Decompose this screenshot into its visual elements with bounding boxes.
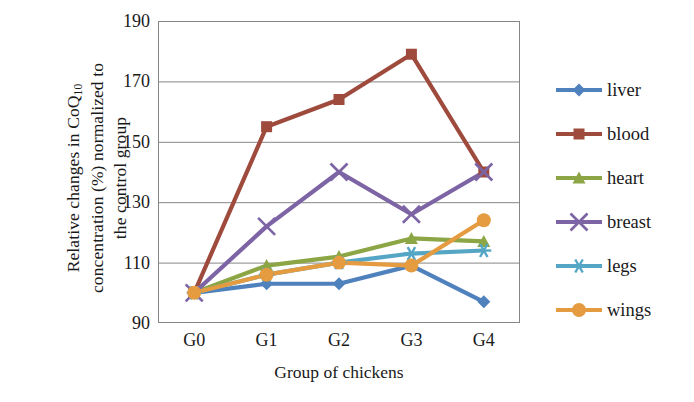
y-axis-title-text: Relative changes in CoQ — [63, 95, 83, 272]
data-point-cross — [331, 164, 348, 181]
data-point-circle — [572, 303, 586, 317]
data-point-circle — [332, 256, 346, 270]
data-point-cross — [403, 206, 420, 223]
legend-item-blood[interactable]: blood — [556, 112, 694, 156]
data-point-square — [261, 121, 272, 132]
series-markers — [186, 49, 493, 309]
data-point-square — [574, 129, 585, 140]
chart-legend: liverbloodheartbreastlegswings — [556, 68, 694, 332]
legend-item-legs[interactable]: legs — [556, 244, 694, 288]
y-axis-tick-label: 90 — [90, 314, 150, 332]
y-axis-title-subscript: 10 — [72, 84, 84, 96]
y-axis-tick-label: 110 — [90, 254, 150, 272]
legend-label-blood: blood — [602, 125, 649, 144]
legend-marker-square-icon — [556, 123, 602, 145]
data-point-diamond — [573, 84, 586, 97]
legend-item-wings[interactable]: wings — [556, 288, 694, 332]
x-axis-tick-label: G1 — [256, 331, 278, 349]
y-axis-tick-label: 190 — [90, 12, 150, 30]
legend-item-liver[interactable]: liver — [556, 68, 694, 112]
legend-label-wings: wings — [602, 301, 651, 320]
data-point-asterisk — [572, 260, 587, 273]
chart-svg — [158, 21, 520, 323]
data-point-diamond — [333, 277, 346, 290]
data-point-circle — [404, 259, 418, 273]
x-axis-tick-label: G2 — [328, 331, 350, 349]
x-axis-title: Group of chickens — [158, 364, 520, 382]
y-axis-tick-label: 170 — [90, 72, 150, 90]
legend-marker-triangle-icon — [556, 167, 602, 189]
data-point-cross — [475, 164, 492, 181]
data-point-circle — [187, 286, 201, 300]
legend-item-breast[interactable]: breast — [556, 200, 694, 244]
data-point-cross — [258, 218, 275, 235]
legend-label-legs: legs — [602, 257, 637, 276]
x-axis-tick-label: G4 — [473, 331, 495, 349]
x-axis-tick-label: G0 — [183, 331, 205, 349]
data-point-square — [406, 49, 417, 60]
y-axis-tick-label: 150 — [90, 133, 150, 151]
data-point-square — [334, 94, 345, 105]
legend-label-liver: liver — [602, 81, 641, 100]
legend-marker-diamond-icon — [556, 79, 602, 101]
legend-label-breast: breast — [602, 213, 651, 232]
x-axis-tick-label: G3 — [400, 331, 422, 349]
y-axis-tick-labels: 90110130150170190 — [84, 0, 150, 402]
chart-figure: Relative changes in CoQ10 concentration … — [0, 0, 694, 402]
y-axis-tick-label: 130 — [90, 193, 150, 211]
legend-marker-asterisk-icon — [556, 255, 602, 277]
legend-label-heart: heart — [602, 169, 644, 188]
legend-marker-cross-icon — [556, 211, 602, 233]
plot-area — [158, 21, 520, 323]
data-point-circle — [260, 268, 274, 282]
legend-marker-circle-icon — [556, 299, 602, 321]
data-point-asterisk — [404, 247, 419, 260]
data-point-circle — [477, 213, 491, 227]
x-axis-tick-labels: G0G1G2G3G4 — [158, 331, 520, 359]
legend-item-heart[interactable]: heart — [556, 156, 694, 200]
y-axis-title: Relative changes in CoQ10 concentration … — [0, 0, 74, 360]
